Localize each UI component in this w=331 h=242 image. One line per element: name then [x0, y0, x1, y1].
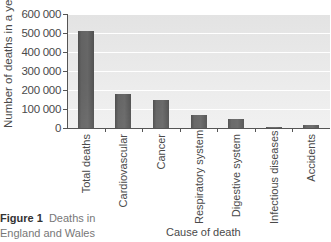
y-tick-label: 0	[55, 122, 61, 134]
bar	[115, 94, 131, 128]
x-tick-mark	[255, 128, 256, 132]
y-tick-label: 500 000	[22, 27, 61, 39]
gridline	[67, 90, 330, 91]
y-axis-line	[67, 14, 68, 129]
y-tick-mark	[63, 90, 67, 91]
bar	[191, 115, 207, 128]
x-tick-mark	[292, 128, 293, 132]
x-tick-label: Accidents	[305, 134, 317, 224]
x-tick-label: Digestive system	[230, 134, 242, 224]
caption-text-line2: England and Wales	[0, 227, 95, 239]
y-tick-label: 200 000	[22, 84, 61, 96]
x-axis-title: Cause of death	[166, 226, 241, 238]
gridline	[67, 109, 330, 110]
x-axis-line	[67, 128, 330, 129]
gridline	[67, 52, 330, 53]
y-tick-label: 600 000	[22, 8, 61, 20]
y-tick-mark	[63, 109, 67, 110]
y-tick-mark	[63, 14, 67, 15]
bar	[303, 125, 319, 128]
plot-area	[67, 14, 330, 128]
y-tick-label: 400 000	[22, 46, 61, 58]
bar	[78, 31, 94, 128]
x-tick-label: Infectious diseases	[268, 134, 280, 224]
x-tick-label: Cardiovascular	[117, 134, 129, 224]
bar	[228, 119, 244, 128]
x-tick-mark	[105, 128, 106, 132]
figure-caption: Figure 1 Deaths in England and Wales	[0, 211, 95, 241]
x-tick-mark	[217, 128, 218, 132]
y-axis-title: Number of deaths in a year	[2, 14, 14, 128]
x-tick-label: Cancer	[155, 134, 167, 224]
gridline	[67, 14, 330, 15]
bar	[153, 100, 169, 128]
y-tick-mark	[63, 33, 67, 34]
y-tick-mark	[63, 128, 67, 129]
caption-text-line1: Deaths in	[49, 212, 95, 224]
y-tick-mark	[63, 52, 67, 53]
gridline	[67, 33, 330, 34]
y-tick-mark	[63, 71, 67, 72]
y-tick-label: 100 000	[22, 103, 61, 115]
x-tick-mark	[142, 128, 143, 132]
x-tick-mark	[180, 128, 181, 132]
bar	[266, 127, 282, 128]
figure-label: Figure 1	[0, 212, 43, 224]
x-tick-label: Respiratory system	[193, 134, 205, 224]
gridline	[67, 71, 330, 72]
y-tick-label: 300 000	[22, 65, 61, 77]
